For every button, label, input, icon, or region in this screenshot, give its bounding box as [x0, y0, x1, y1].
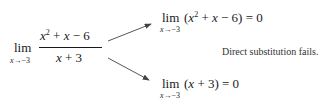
lim-subscript: x→−3 — [160, 25, 180, 34]
lower-arrow — [108, 58, 149, 80]
bottom-expression: (x + 3) = 0 — [184, 76, 239, 92]
numerator: x2 + x − 6 — [40, 28, 90, 44]
top-expression: (x2 + x − 6) = 0 — [184, 10, 263, 26]
upper-arrow — [108, 24, 151, 41]
lim-label: lim — [162, 10, 179, 26]
lim-label: lim — [14, 40, 31, 56]
note-text: Direct substitution fails. — [222, 46, 318, 57]
lim-subscript: x→−3 — [10, 56, 30, 65]
lim-subscript: x→−3 — [160, 91, 180, 100]
denominator: x + 3 — [56, 50, 82, 66]
lim-label: lim — [162, 76, 179, 92]
fraction-bar — [39, 47, 102, 48]
